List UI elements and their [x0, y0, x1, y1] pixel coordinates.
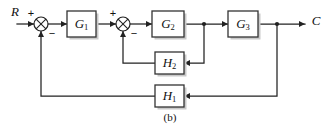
summing-junction-2-minus-sign: − [131, 27, 137, 39]
summing-junction-2-plus-sign: + [110, 7, 116, 19]
diagram-canvas: + − + − G1 G2 [0, 0, 325, 129]
block-g1[interactable]: G1 [67, 11, 99, 40]
arrowhead-into-sum2 [110, 21, 116, 27]
takeoff-dot-output [275, 22, 279, 26]
takeoff-dot-g2-output [202, 22, 206, 26]
block-g3-subscript: 3 [246, 22, 250, 32]
block-g3[interactable]: G3 [228, 11, 261, 40]
block-g2[interactable]: G2 [152, 11, 187, 40]
block-g1-subscript: 1 [84, 22, 88, 32]
arrowhead-into-sum1 [28, 21, 34, 27]
arrowhead-into-g2 [146, 21, 152, 27]
block-g2-subscript: 2 [171, 22, 175, 32]
arrowhead-into-output [299, 21, 305, 27]
block-diagram-figure: + − + − G1 G2 [0, 0, 325, 129]
block-h2[interactable]: H2 [155, 52, 187, 77]
arrowhead-into-sum2-feedback [120, 31, 126, 37]
arrowhead-into-g3 [222, 21, 228, 27]
block-h2-subscript: 2 [172, 61, 176, 71]
block-h1[interactable]: H1 [155, 85, 187, 110]
wire-inner-feedback-takeoff [184, 24, 204, 63]
wire-h2-to-sum2 [123, 31, 155, 63]
block-h1-letter: H [162, 88, 173, 103]
figure-caption: (b) [164, 111, 177, 124]
arrowhead-into-sum1-feedback [38, 31, 44, 37]
signal-label-c: C [312, 13, 321, 28]
block-h1-subscript: 1 [172, 94, 176, 104]
arrowhead-into-g1 [61, 21, 67, 27]
signal-label-r: R [10, 4, 19, 19]
summing-junction-1-plus-sign: + [28, 7, 34, 19]
summing-junction-1-minus-sign: − [49, 27, 55, 39]
block-h2-letter: H [162, 55, 173, 70]
